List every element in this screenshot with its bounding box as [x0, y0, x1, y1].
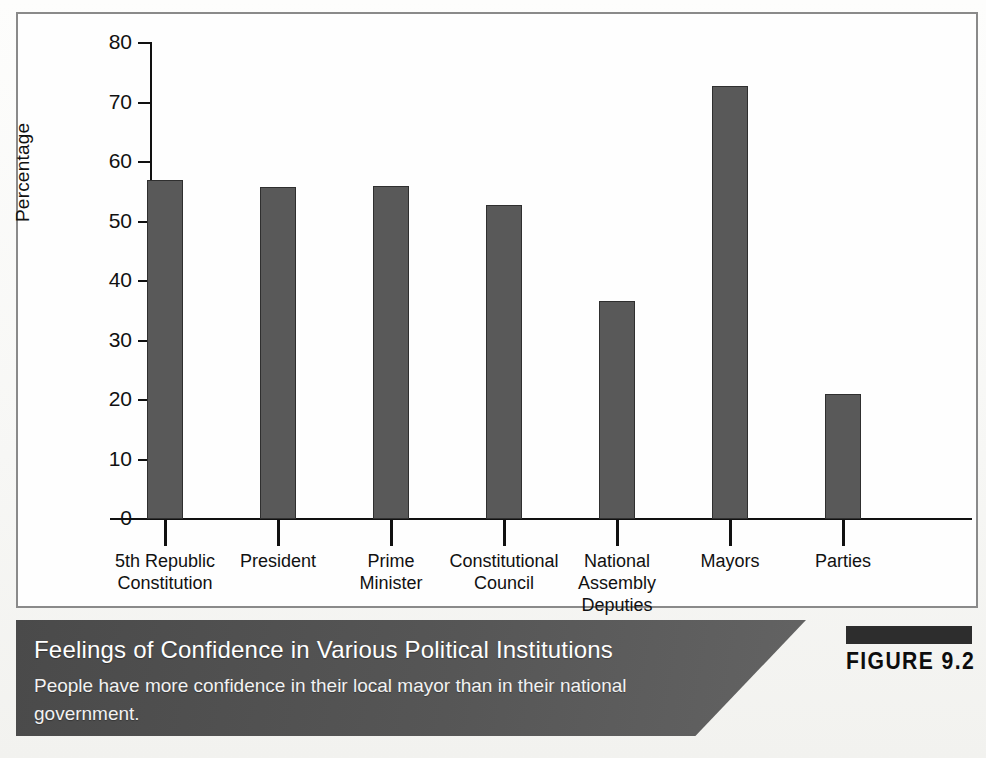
- y-axis-tick-label: 30: [76, 328, 132, 352]
- y-axis-tick: [138, 42, 152, 44]
- x-axis-tick: [842, 520, 845, 546]
- y-axis-tick-label: 70: [76, 90, 132, 114]
- caption-subtitle: People have more confidence in their loc…: [34, 672, 674, 728]
- y-axis-tick-label: 20: [76, 387, 132, 411]
- caption-title: Feelings of Confidence in Various Politi…: [34, 636, 613, 664]
- x-axis-tick: [729, 520, 732, 546]
- y-axis-tick-label: 50: [76, 209, 132, 233]
- y-axis-tick-label: 40: [76, 268, 132, 292]
- x-axis-tick: [390, 520, 393, 546]
- x-axis-label-line: Parties: [768, 550, 918, 572]
- y-axis-tick: [138, 161, 152, 163]
- x-axis-tick: [616, 520, 619, 546]
- y-axis-tick: [138, 102, 152, 104]
- bar: [486, 205, 522, 519]
- y-axis-tick-label: 60: [76, 149, 132, 173]
- bar: [147, 180, 183, 519]
- y-axis-tick-label: 0: [76, 506, 132, 530]
- x-axis-label-line: Assembly: [542, 572, 692, 594]
- bar: [373, 186, 409, 519]
- x-axis-label: Parties: [768, 550, 918, 572]
- bar: [825, 394, 861, 519]
- x-axis-label-line: Constitution: [90, 572, 240, 594]
- figure-tag-label: FIGURE 9.2: [846, 648, 967, 675]
- figure-tag-bar: [846, 626, 972, 644]
- chart-plot-frame: Percentage 01020304050607080 5th Republi…: [16, 12, 978, 608]
- x-axis-label-line: Deputies: [542, 594, 692, 616]
- bar: [712, 86, 748, 519]
- y-axis-title: Percentage: [12, 22, 34, 222]
- x-axis-tick: [164, 520, 167, 546]
- bar: [599, 301, 635, 519]
- x-axis-tick: [277, 520, 280, 546]
- bar: [260, 187, 296, 519]
- y-axis-tick-label: 80: [76, 30, 132, 54]
- y-axis-tick-label: 10: [76, 447, 132, 471]
- figure-page: Percentage 01020304050607080 5th Republi…: [0, 0, 986, 758]
- x-axis-tick: [503, 520, 506, 546]
